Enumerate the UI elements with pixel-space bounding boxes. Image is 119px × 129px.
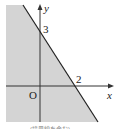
y-intercept-label: 3 [43, 23, 49, 35]
x-axis-arrow-icon [108, 84, 114, 89]
inequality-diagram: y x O 3 2 (境界線を含む) [0, 0, 119, 129]
y-axis-label: y [43, 2, 49, 14]
caption: (境界線を含む) [30, 125, 70, 129]
y-axis-arrow-icon [38, 4, 43, 10]
x-intercept-label: 2 [76, 73, 82, 85]
shaded-region [6, 5, 98, 122]
origin-label: O [29, 89, 37, 101]
x-axis-label: x [106, 89, 112, 101]
